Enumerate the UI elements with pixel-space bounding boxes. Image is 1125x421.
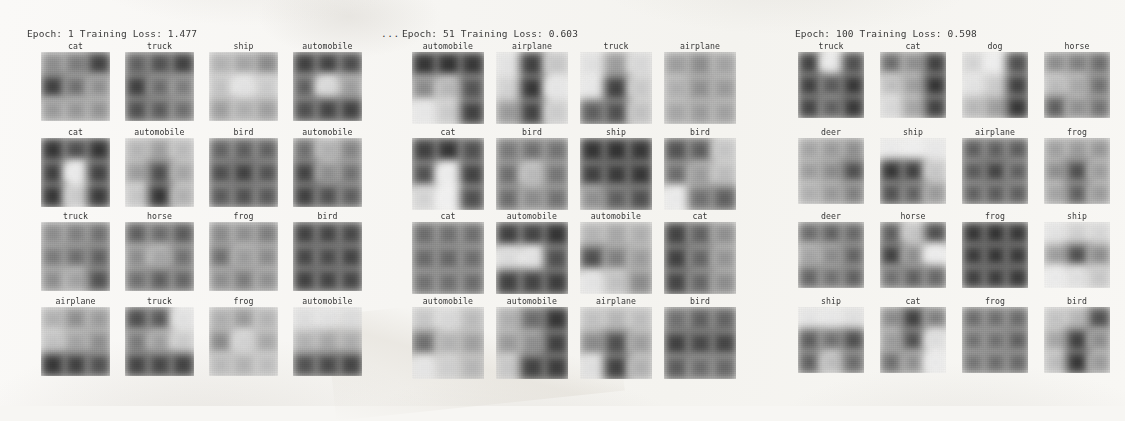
tile-grain-overlay: [293, 138, 362, 207]
tile-grain-overlay: [412, 307, 484, 379]
sample-cell: horse: [1044, 52, 1110, 118]
tile-grain-overlay: [580, 307, 652, 379]
sample-cell: truck: [580, 52, 652, 124]
sample-class-label: horse: [125, 211, 194, 221]
sample-image-tile: [664, 222, 736, 294]
sample-image-tile: [496, 222, 568, 294]
tile-grain-overlay: [496, 222, 568, 294]
tile-grain-overlay: [880, 222, 946, 288]
sample-image-tile: [412, 52, 484, 124]
tile-grain-overlay: [580, 52, 652, 124]
sample-image-tile: [125, 222, 194, 291]
sample-image-tile: [41, 222, 110, 291]
sample-image-tile: [412, 307, 484, 379]
sample-image-tile: [798, 138, 864, 204]
sample-cell: cat: [412, 222, 484, 294]
sample-image-tile: [880, 307, 946, 373]
sample-class-label: automobile: [293, 41, 362, 51]
sample-cell: horse: [880, 222, 946, 288]
tile-grain-overlay: [496, 307, 568, 379]
sample-class-label: cat: [412, 211, 484, 221]
sample-cell: airplane: [962, 138, 1028, 204]
tile-grain-overlay: [962, 222, 1028, 288]
sample-class-label: bird: [496, 127, 568, 137]
sample-cell: dog: [962, 52, 1028, 118]
panel-title-epoch-51: Epoch: 51 Training Loss: 0.603: [402, 28, 578, 39]
sample-class-label: ship: [880, 127, 946, 137]
sample-class-label: truck: [125, 41, 194, 51]
sample-image-tile: [664, 138, 736, 210]
sample-cell: cat: [41, 52, 110, 121]
sample-image-tile: [1044, 52, 1110, 118]
sample-cell: airplane: [580, 307, 652, 379]
sample-class-label: ship: [580, 127, 652, 137]
sample-class-label: bird: [209, 127, 278, 137]
sample-cell: bird: [293, 222, 362, 291]
sample-cell: bird: [664, 307, 736, 379]
tile-grain-overlay: [962, 307, 1028, 373]
tile-grain-overlay: [1044, 52, 1110, 118]
sample-image-tile: [798, 222, 864, 288]
tile-grain-overlay: [496, 138, 568, 210]
sample-class-label: frog: [209, 211, 278, 221]
sample-cell: truck: [125, 307, 194, 376]
sample-class-label: cat: [41, 41, 110, 51]
sample-image-tile: [209, 307, 278, 376]
tile-grain-overlay: [41, 222, 110, 291]
tile-grain-overlay: [41, 52, 110, 121]
tile-grain-overlay: [125, 138, 194, 207]
tile-grain-overlay: [125, 222, 194, 291]
tile-grain-overlay: [1044, 307, 1110, 373]
sample-cell: truck: [41, 222, 110, 291]
sample-cell: frog: [962, 307, 1028, 373]
sample-class-label: deer: [798, 211, 864, 221]
panel-title-epoch-100: Epoch: 100 Training Loss: 0.598: [795, 28, 977, 39]
sample-image-tile: [962, 307, 1028, 373]
sample-class-label: automobile: [293, 296, 362, 306]
sample-cell: automobile: [293, 52, 362, 121]
tile-grain-overlay: [880, 138, 946, 204]
sample-cell: automobile: [412, 307, 484, 379]
sample-cell: bird: [1044, 307, 1110, 373]
tile-grain-overlay: [209, 222, 278, 291]
sample-class-label: frog: [1044, 127, 1110, 137]
sample-cell: truck: [798, 52, 864, 118]
sample-cell: automobile: [125, 138, 194, 207]
sample-class-label: airplane: [580, 296, 652, 306]
sample-class-label: ship: [209, 41, 278, 51]
sample-class-label: cat: [880, 296, 946, 306]
sample-cell: automobile: [496, 222, 568, 294]
tile-grain-overlay: [209, 307, 278, 376]
sample-cell: horse: [125, 222, 194, 291]
sample-class-label: truck: [798, 41, 864, 51]
sample-class-label: horse: [880, 211, 946, 221]
sample-cell: bird: [664, 138, 736, 210]
sample-class-label: frog: [962, 211, 1028, 221]
tile-grain-overlay: [293, 52, 362, 121]
sample-class-label: bird: [293, 211, 362, 221]
sample-class-label: dog: [962, 41, 1028, 51]
sample-class-label: airplane: [962, 127, 1028, 137]
tile-grain-overlay: [1044, 222, 1110, 288]
sample-class-label: frog: [962, 296, 1028, 306]
sample-class-label: deer: [798, 127, 864, 137]
sample-image-tile: [580, 222, 652, 294]
sample-image-tile: [125, 138, 194, 207]
sample-class-label: horse: [1044, 41, 1110, 51]
sample-image-tile: [412, 222, 484, 294]
tile-grain-overlay: [664, 222, 736, 294]
sample-cell: frog: [209, 307, 278, 376]
sample-cell: cat: [41, 138, 110, 207]
sample-image-tile: [962, 52, 1028, 118]
sample-cell: truck: [125, 52, 194, 121]
sample-image-tile: [412, 138, 484, 210]
sample-image-tile: [1044, 138, 1110, 204]
sample-class-label: bird: [1044, 296, 1110, 306]
sample-class-label: truck: [125, 296, 194, 306]
sample-cell: automobile: [412, 52, 484, 124]
tile-grain-overlay: [412, 222, 484, 294]
sample-image-tile: [880, 138, 946, 204]
sample-image-tile: [880, 222, 946, 288]
sample-cell: cat: [880, 52, 946, 118]
sample-image-tile: [496, 307, 568, 379]
